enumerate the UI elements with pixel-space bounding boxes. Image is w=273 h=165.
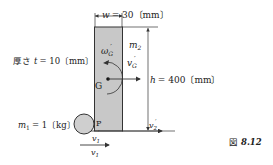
- v2-label: v2′: [149, 118, 158, 131]
- vg-label: vG′: [127, 55, 137, 69]
- diagram-canvas: w= 30〔mm〕 h= 400〔mm〕 厚さt= 10〔mm〕 ωG′ m2 …: [0, 0, 273, 165]
- ball-m1: [74, 114, 94, 134]
- thickness-label: 厚さt= 10〔mm〕: [13, 56, 94, 66]
- p-label: P: [96, 119, 102, 128]
- mass1-label: m1= 1〔kg〕: [18, 120, 76, 131]
- v1-label: v1: [91, 148, 99, 158]
- width-label: w= 30〔mm〕: [102, 10, 169, 20]
- figure-caption: 図8.12: [229, 137, 262, 147]
- mass2-label: m2: [129, 40, 142, 51]
- omega-g-label: ωG′: [101, 43, 113, 57]
- height-label: h= 400〔mm〕: [150, 75, 220, 85]
- g-label: G: [95, 81, 102, 91]
